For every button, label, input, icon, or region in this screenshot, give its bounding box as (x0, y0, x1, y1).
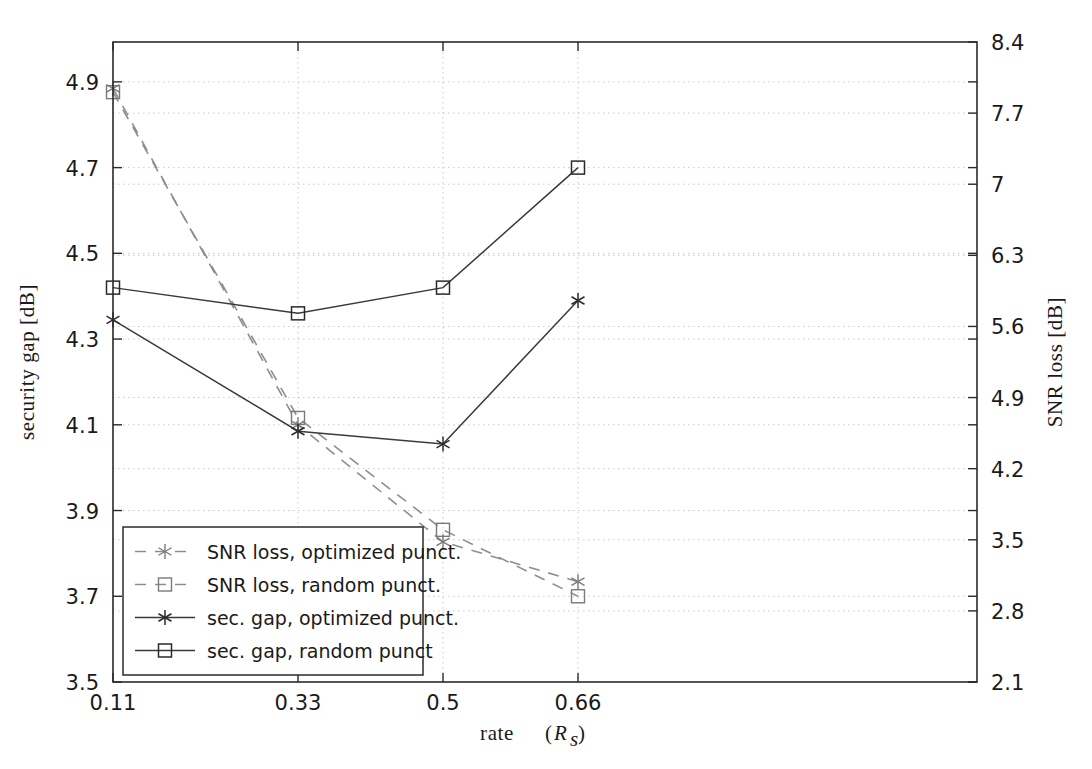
y2-tick-label: 7 (991, 173, 1004, 197)
y-axis-title: security gap [dB] (15, 284, 39, 440)
y-tick-label: 4.3 (66, 328, 99, 352)
y2-tick-label: 7.7 (991, 102, 1024, 126)
y-axis-tick-labels: 3.53.73.94.14.34.54.74.9 (66, 71, 99, 695)
y2-tick-label: 3.5 (991, 529, 1024, 553)
x-axis-tick-labels: 0.110.330.50.66 (90, 691, 602, 715)
legend-label: sec. gap, optimized punct. (207, 607, 459, 629)
y-tick-label: 4.5 (66, 242, 99, 266)
y2-tick-label: 4.2 (991, 458, 1024, 482)
x-tick-label: 0.11 (90, 691, 137, 715)
x-tick-label: 0.5 (426, 691, 459, 715)
y2-axis-tick-labels: 2.12.83.54.24.95.66.377.78.4 (991, 31, 1024, 695)
y2-tick-label: 2.1 (991, 671, 1024, 695)
x-axis-title-main: rate (480, 721, 514, 745)
x-axis-title-variable: R (553, 721, 567, 745)
x-axis-title-paren-close: ) (578, 721, 586, 745)
x-axis-title-paren-open: ( (545, 721, 553, 745)
y2-tick-label: 2.8 (991, 600, 1024, 624)
x-axis-title: rate ( R s ) (480, 721, 586, 751)
y2-tick-label: 5.6 (991, 315, 1024, 339)
y-tick-label: 3.9 (66, 500, 99, 524)
y2-tick-label: 8.4 (991, 31, 1024, 55)
y-tick-label: 4.7 (66, 157, 99, 181)
y-tick-label: 4.1 (66, 414, 99, 438)
legend-label: SNR loss, random punct. (207, 574, 441, 596)
y-tick-label: 4.9 (66, 71, 99, 95)
legend[interactable]: SNR loss, optimized punct.SNR loss, rand… (123, 527, 461, 675)
figure-canvas: 3.53.73.94.14.34.54.74.9 2.12.83.54.24.9… (0, 0, 1092, 769)
y2-tick-label: 6.3 (991, 244, 1024, 268)
x-tick-label: 0.66 (555, 691, 602, 715)
y2-tick-label: 4.9 (991, 387, 1024, 411)
legend-label: SNR loss, optimized punct. (207, 541, 461, 563)
x-tick-label: 0.33 (275, 691, 322, 715)
y2-axis-title: SNR loss [dB] (1043, 297, 1067, 427)
y-tick-label: 3.7 (66, 585, 99, 609)
legend-label: sec. gap, random punct (207, 640, 433, 662)
